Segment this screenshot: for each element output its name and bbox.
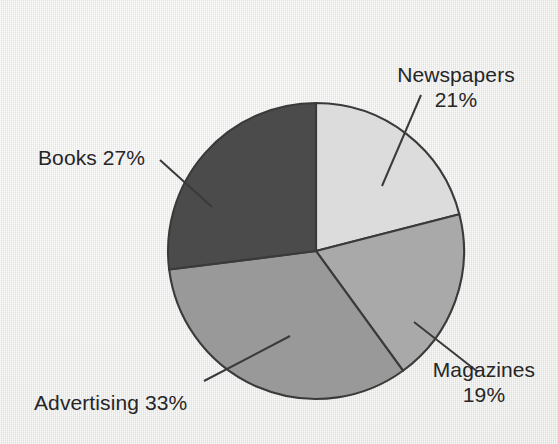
- slice-label-newspapers: Newspapers 21%: [382, 62, 530, 112]
- slice-label-magazines-name: Magazines: [433, 358, 535, 381]
- slice-label-books-name: Books 27%: [38, 146, 145, 169]
- slice-label-magazines: Magazines 19%: [416, 357, 552, 407]
- slice-label-advertising-name: Advertising 33%: [34, 391, 187, 414]
- slice-label-newspapers-name: Newspapers: [397, 63, 515, 86]
- slice-label-magazines-value: 19%: [416, 382, 552, 407]
- slice-label-newspapers-value: 21%: [382, 87, 530, 112]
- slice-label-books: Books 27%: [38, 145, 198, 170]
- slice-label-advertising: Advertising 33%: [34, 390, 254, 415]
- pie-chart: Newspapers 21% Books 27% Magazines 19% A…: [0, 0, 558, 444]
